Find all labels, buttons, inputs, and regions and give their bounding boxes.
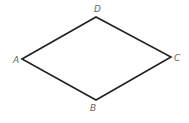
rhombus-diagram: A B C D [0, 0, 189, 123]
vertex-label-d: D [94, 4, 101, 14]
vertex-label-b: B [90, 103, 96, 113]
rhombus-shape [22, 17, 171, 100]
vertex-label-a: A [12, 55, 19, 65]
vertex-label-c: C [174, 53, 181, 63]
